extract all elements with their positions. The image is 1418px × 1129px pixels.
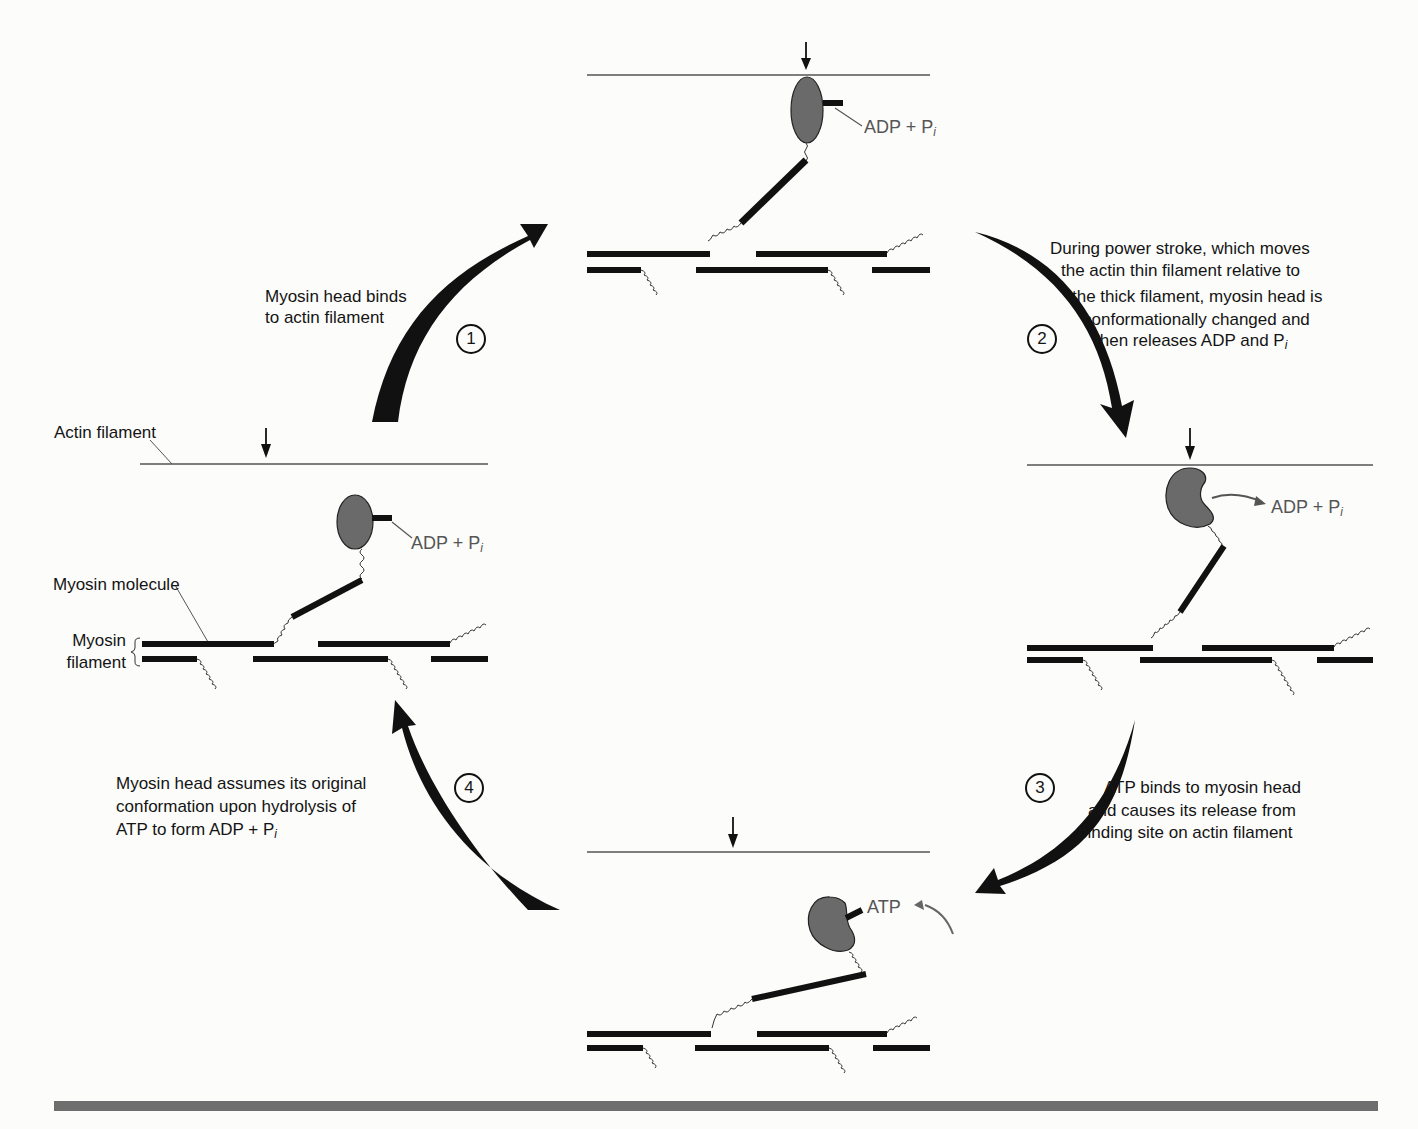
actin-filament-label: Actin filament [54, 423, 156, 443]
ligand-label-top: ADP + Pi [864, 117, 936, 142]
down-arrow-icon [728, 817, 738, 848]
down-arrow-icon [261, 428, 271, 458]
cycle-arrow-1 [372, 224, 548, 422]
step-number-4: 4 [454, 773, 484, 803]
state-right [1027, 428, 1373, 695]
myosin-head [791, 77, 823, 143]
down-arrow-icon [801, 42, 811, 70]
cycle-arrow-4 [392, 700, 560, 910]
state-top [587, 42, 930, 295]
myosin-filament-label-2: filament [52, 653, 126, 673]
myosin-head [808, 897, 854, 951]
bottom-rule [54, 1101, 1378, 1111]
ligand-label-bottom: ATP [867, 897, 901, 917]
myosin-filament-label-1: Myosin [58, 631, 126, 651]
step-number-1: 1 [456, 324, 486, 354]
myosin-head [337, 495, 373, 549]
step-number-2: 2 [1027, 324, 1057, 354]
state-bottom [587, 817, 953, 1073]
cross-bridge-cycle-diagram [0, 0, 1418, 1129]
ligand-label-left: ADP + Pi [411, 533, 483, 558]
step-number-3: 3 [1025, 773, 1055, 803]
state-left [131, 428, 488, 689]
ligand-label-right: ADP + Pi [1271, 497, 1343, 522]
myosin-head [1166, 468, 1213, 527]
down-arrow-icon [1185, 428, 1195, 460]
myosin-molecule-label: Myosin molecule [53, 575, 180, 595]
brace-icon [131, 638, 140, 666]
